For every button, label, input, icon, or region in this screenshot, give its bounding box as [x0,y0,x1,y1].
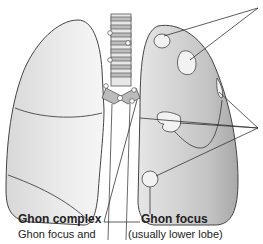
ghon-focus-title: Ghon focus [141,213,208,226]
right-lung [6,20,104,225]
lungs-diagram [0,0,263,244]
ghon-focus-description: (usually lower lobe) [128,228,223,241]
trachea [102,14,140,240]
ghon-complex-description: Ghon focus and [18,228,96,241]
ghon-complex-title: Ghon complex [18,213,101,226]
